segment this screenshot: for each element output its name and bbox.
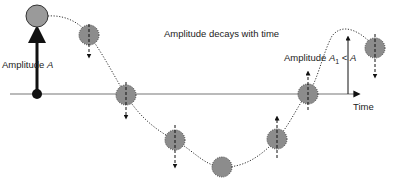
diagram-title: Amplitude decays with time [164,28,279,39]
amplitude-a1-label: Amplitude A1 < A [284,52,356,65]
ball-2 [79,24,99,56]
ball-4 [165,125,185,166]
ball-3 [116,82,136,117]
ball-5 [212,157,232,177]
ball-6 [267,118,287,158]
anchor-dot [32,89,42,99]
time-axis-label: Time [353,101,374,112]
amplitude-a-label: Amplitude A [2,59,53,70]
ball-7 [298,73,318,110]
damped-oscillation-diagram: Amplitude decays with time Amplitude A A… [0,0,395,191]
ball-start [26,5,48,27]
